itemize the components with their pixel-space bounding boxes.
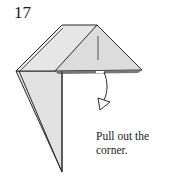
origami-diagram [0,0,179,187]
pull-arrow-icon [98,72,110,110]
instruction-line-1: Pull out the [96,129,149,143]
left-flap [16,67,62,172]
instruction-line-2: corner. [96,143,149,157]
instruction-caption: Pull out the corner. [96,129,149,157]
